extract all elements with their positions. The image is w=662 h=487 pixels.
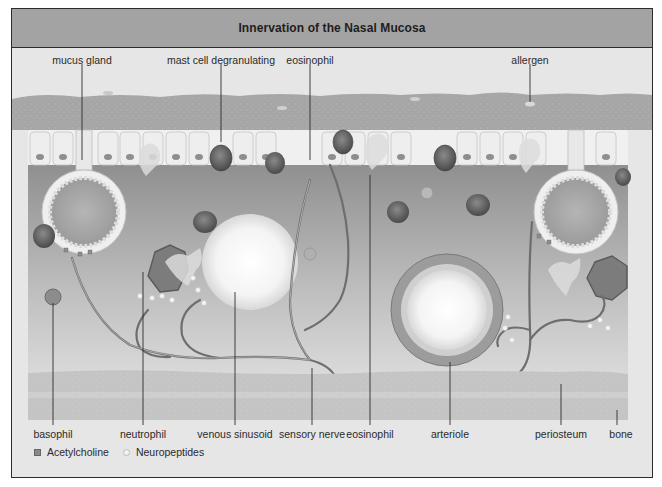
basophil-cell [45,289,61,305]
label-eosinophil-bottom: eosinophil [346,428,393,440]
label-mast-cell-degranulating: mast cell degranulating [167,54,275,66]
neuropeptide-circle-icon [123,449,130,456]
label-mucus-gland: mucus gland [52,54,112,66]
arteriole [391,254,503,366]
venous-sinusoid [202,214,298,310]
allergen-particle [525,102,535,107]
label-allergen: allergen [511,54,548,66]
legend-acetylcholine: Acetylcholine [47,446,109,458]
label-bone: bone [609,428,632,440]
label-neutrophil: neutrophil [120,428,166,440]
label-venous-sinusoid: venous sinusoid [197,428,272,440]
label-arteriole: arteriole [431,428,469,440]
acetylcholine-square-icon [34,449,41,456]
nasal-mucosa-illustration [0,0,662,487]
label-eosinophil-top: eosinophil [286,54,333,66]
legend: Acetylcholine Neuropeptides [34,446,204,458]
label-sensory-nerve: sensory nerve [279,428,345,440]
label-basophil: basophil [33,428,72,440]
legend-neuropeptides: Neuropeptides [136,446,204,458]
label-periosteum: periosteum [535,428,587,440]
